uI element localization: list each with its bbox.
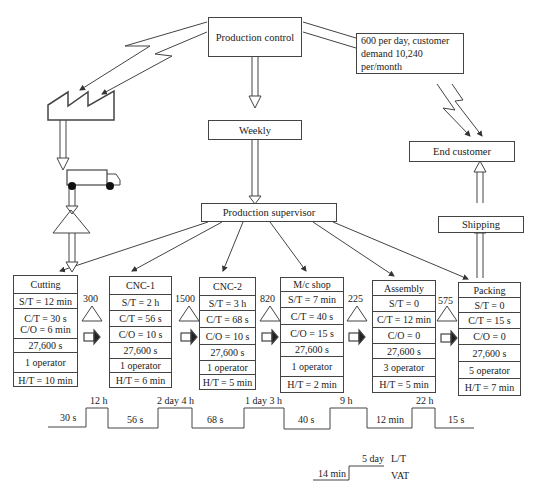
customer-demand-label: 600 per day, customer demand 10,240 per/… [361,34,459,73]
wait-time: 12 h [90,395,108,406]
production-control-box: Production control [208,17,302,57]
production-supervisor-label: Production supervisor [223,207,315,218]
handling-time: H/T = 10 min [14,373,77,388]
setup-time: S/T = 7 min [281,292,343,308]
changeover-time: C/O = 6 min [20,324,70,335]
ct-co-cell: C/T = 30 sC/O = 6 min [14,309,77,339]
available-time: 27,600 s [200,345,255,361]
operators: 1 operator [110,359,171,373]
cycle-time: C/T = 15 s [459,313,520,329]
process-time: 56 s [127,414,143,425]
available-time: 27,600 s [110,343,171,359]
setup-time: S/T = 2 h [110,295,171,311]
inventory-qty: 575 [438,295,453,306]
process-name: M/c shop [281,278,343,292]
wait-time: 2 day 4 h [157,395,194,406]
customer-demand-box: 600 per day, customer demand 10,240 per/… [356,33,464,74]
process-name: Packing [459,283,520,298]
cycle-time: C/T = 68 s [200,311,255,328]
vat-value: 14 min [318,468,346,479]
setup-time: S/T = 0 [373,296,435,312]
operators: 1 operator [281,357,343,377]
lead-time-label: L/T [391,453,406,464]
wait-time: 1 day 3 h [245,395,282,406]
process-box-packing: Packing S/T = 0 C/T = 15 s C/O = 0 27,60… [458,282,521,396]
process-time: 40 s [298,414,314,425]
wait-time: 9 h [340,395,353,406]
handling-time: H/T = 5 min [373,377,435,392]
process-name: Assembly [373,281,435,296]
handling-time: H/T = 5 min [200,375,255,390]
lead-time-value: 5 day [362,453,384,464]
inventory-qty: 1500 [175,293,195,304]
cycle-time: C/T = 40 s [281,308,343,325]
operators: 1 operator [14,353,77,373]
process-box-mc-shop: M/c shop S/T = 7 min C/T = 40 s C/O = 15… [280,277,344,393]
process-box-cutting: Cutting S/T = 12 min C/T = 30 sC/O = 6 m… [13,275,78,387]
changeover-time: C/O = 0 [459,329,520,345]
available-time: 27,600 s [459,345,520,362]
production-supervisor-box: Production supervisor [201,203,337,222]
setup-time: S/T = 12 min [14,294,77,309]
cycle-time: C/T = 30 s [24,313,66,324]
weekly-label: Weekly [239,125,271,136]
process-time: 30 s [60,412,76,423]
available-time: 27,600 s [14,339,77,353]
process-name: CNC-1 [110,277,171,295]
process-box-cnc-1: CNC-1 S/T = 2 h C/T = 56 s C/O = 10 s 27… [109,276,172,388]
changeover-time: C/O = 10 s [200,328,255,345]
changeover-time: C/O = 15 s [281,325,343,343]
production-control-label: Production control [216,32,294,43]
end-customer-box: End customer [409,141,515,162]
process-name: Cutting [14,276,77,294]
inventory-qty: 820 [260,293,275,304]
inventory-qty: 300 [83,293,98,304]
process-name: CNC-2 [200,278,255,296]
handling-time: H/T = 7 min [459,379,520,395]
wait-time: 22 h [416,395,434,406]
end-customer-label: End customer [433,146,491,157]
changeover-time: C/O = 10 s [110,327,171,343]
setup-time: S/T = 0 [459,298,520,313]
operators: 3 operator [373,359,435,377]
process-time: 12 min [376,414,404,425]
available-time: 27,600 s [373,344,435,359]
shipping-label: Shipping [462,219,500,230]
cycle-time: C/T = 56 s [110,311,171,327]
process-time: 68 s [207,414,223,425]
handling-time: H/T = 2 min [281,377,343,392]
available-time: 27,600 s [281,343,343,357]
weekly-box: Weekly [208,120,302,140]
process-box-assembly: Assembly S/T = 0 C/T = 12 min C/O = 0 27… [372,280,436,393]
cycle-time: C/T = 12 min [373,312,435,328]
shipping-box: Shipping [438,216,524,233]
operators: 1 operator [200,361,255,375]
process-box-cnc-2: CNC-2 S/T = 3 h C/T = 68 s C/O = 10 s 27… [199,277,256,390]
changeover-time: C/O = 0 [373,328,435,344]
inventory-qty: 225 [348,293,363,304]
handling-time: H/T = 6 min [110,373,171,388]
process-time: 15 s [448,414,464,425]
setup-time: S/T = 3 h [200,296,255,311]
operators: 5 operator [459,362,520,379]
vat-label: VAT [391,470,409,481]
